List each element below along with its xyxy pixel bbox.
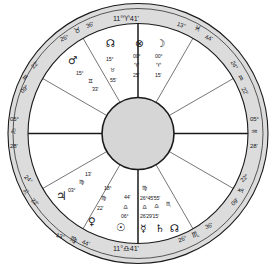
cusp-label-mc: 11°♈41' [113, 15, 139, 23]
natal-chart-wheel: 11°♈41' 13° ♓ 44' 24° ♒ 22' 05° ♒ 28' 22… [0, 0, 276, 267]
mars-degree: 15° [76, 71, 83, 76]
ic-minute: 41' [130, 244, 139, 253]
north-node-sign-glyph: ♉ [110, 68, 115, 74]
bottom-cluster-minutes-row: 26'29'15' [140, 214, 159, 219]
mc-sign-glyph: ♈ [123, 14, 130, 23]
venus-minute: 22' [97, 206, 103, 211]
mars-icon: ♂ [68, 55, 77, 66]
moon-degree: 00° [155, 54, 162, 59]
moon-sign-glyph: ♈ [156, 63, 161, 69]
ic-degree: 11° [113, 244, 123, 253]
jupiter-minute: 13' [85, 172, 91, 177]
north-node-minute: 55' [110, 78, 116, 83]
cusp-label-asc-degree: 05° [10, 116, 19, 122]
cusp-label-dsc-minute: 28' [250, 143, 258, 149]
jupiter-sign-glyph: ♍ [79, 180, 84, 186]
cusp-label-ic: 11°♎41' [113, 245, 139, 253]
part-of-fortune-icon: ⊗ [135, 38, 144, 49]
cusp-label-asc-sign: ♌ [10, 128, 17, 136]
saturn-icon: ♄ [155, 223, 164, 234]
moon-icon: ☽ [156, 38, 165, 49]
ic-sign-glyph: ♎ [123, 244, 130, 253]
mc-minute: 41' [130, 14, 139, 23]
bottom-cluster-sign-b: ♎ [154, 204, 159, 210]
cusp-label-dsc-sign: ♒ [251, 128, 258, 136]
mercury-icon: ☿ [140, 223, 146, 234]
moon-minute: 15' [155, 73, 161, 78]
cusp-label-dsc-degree: 05° [250, 116, 259, 122]
north-node-degree: 15° [106, 57, 113, 62]
part-of-fortune-degree: 00° [133, 54, 140, 59]
part-of-fortune-minute: 25' [133, 73, 139, 78]
mars-sign-glyph: ♊ [88, 79, 93, 85]
jupiter-icon: ♃ [56, 190, 67, 202]
north-node-icon: ☊ [106, 38, 115, 49]
sun-minute-upper: 44' [124, 195, 130, 200]
mars-minute: 33' [92, 87, 98, 92]
cusp-label-asc-minute: 28' [10, 143, 18, 149]
jupiter-degree: 03° [68, 188, 75, 193]
mc-degree: 11° [113, 14, 123, 23]
venus-minute-upper: 18° [104, 186, 111, 191]
bottom-cluster-sign-top: ♍ [142, 186, 147, 192]
part-of-fortune-sign-glyph: ♈ [134, 63, 139, 69]
sun-icon: ☉ [116, 222, 125, 233]
aspect-hub-circle [102, 98, 174, 170]
sun-sign-glyph: ♎ [123, 205, 128, 211]
sun-degree: 06° [121, 214, 128, 219]
venus-sign-glyph: ♍ [101, 196, 106, 202]
south-node-icon: ☊ [170, 223, 179, 234]
bottom-cluster-sign-a: ♎ [142, 205, 147, 211]
bottom-cluster-sign-c: ♏ [166, 202, 171, 208]
venus-icon: ♀ [88, 216, 96, 227]
bottom-cluster-degrees-row: 26°45'55' [140, 196, 160, 201]
